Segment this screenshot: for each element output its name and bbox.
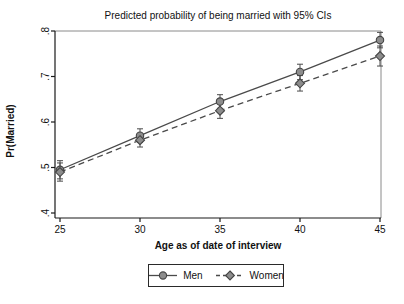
y-tick-label: .6 <box>40 117 51 126</box>
marker-men <box>376 36 383 43</box>
marker-men <box>216 98 223 105</box>
legend-label-women: Women <box>250 270 284 281</box>
x-axis-label: Age as of date of interview <box>55 240 381 251</box>
figure: Predicted probability of being married w… <box>0 0 404 304</box>
y-tick-label: .7 <box>40 72 51 81</box>
marker-women <box>296 79 305 88</box>
x-tick-label: 35 <box>214 224 226 235</box>
marker-women <box>376 52 385 61</box>
x-tick-label: 30 <box>134 224 146 235</box>
legend-item-women: Women <box>215 270 284 281</box>
y-tick-label: .5 <box>40 163 51 172</box>
y-tick-label: .8 <box>40 26 51 35</box>
x-tick-label: 40 <box>294 224 306 235</box>
marker-women <box>216 106 225 115</box>
diamond-marker-icon <box>215 270 245 281</box>
legend-item-men: Men <box>148 270 202 281</box>
marker-men <box>296 68 303 75</box>
circle-marker-icon <box>148 270 178 281</box>
x-tick-label: 25 <box>54 224 66 235</box>
y-tick-label: .4 <box>40 208 51 217</box>
legend-label-men: Men <box>183 270 202 281</box>
plot-canvas: .4.5.6.7.82530354045 <box>0 0 404 304</box>
legend: Men Women <box>148 264 284 287</box>
x-tick-label: 45 <box>374 224 386 235</box>
